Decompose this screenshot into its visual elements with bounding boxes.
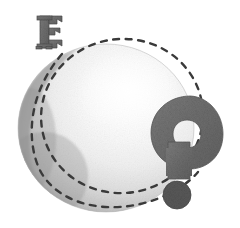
letter-e-glyph <box>36 16 62 49</box>
letter-e-layer <box>0 0 240 228</box>
figure-canvas: E ? Sphere with unknown spherical region… <box>0 0 240 228</box>
